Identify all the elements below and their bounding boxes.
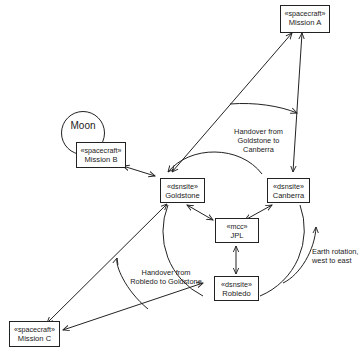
node-stereotype: «dsnsite»	[161, 182, 204, 191]
node-mission-b[interactable]: «spacecraft» Mission B	[76, 142, 126, 168]
node-name: Goldstone	[161, 191, 204, 200]
node-stereotype: «dsnsite»	[215, 280, 258, 289]
node-name: Mission B	[77, 155, 125, 164]
node-mission-c[interactable]: «spacecraft» Mission C	[9, 321, 60, 347]
annotation-earth-rotation: Earth rotation, west to east	[312, 247, 362, 265]
node-canberra[interactable]: «dsnsite» Canberra	[267, 178, 310, 203]
earth-arc-top	[168, 152, 262, 174]
link-goldstone-mission-c	[47, 204, 167, 323]
node-name: Robledo	[215, 289, 258, 298]
node-jpl[interactable]: «mcc» JPL	[215, 218, 259, 243]
node-robledo[interactable]: «dsnsite» Robledo	[214, 276, 259, 301]
node-name: Mission A	[281, 18, 329, 27]
link-canberra-mission-a	[293, 33, 302, 172]
link-jpl-goldstone	[187, 205, 213, 220]
handover-arc-gc	[230, 103, 297, 113]
node-name: JPL	[216, 231, 258, 240]
node-name: Mission C	[10, 334, 59, 343]
earth-circle	[260, 205, 304, 296]
node-stereotype: «spacecraft»	[10, 325, 59, 334]
annotation-handover-goldstone-canberra: Handover from Goldstone to Canberra	[226, 127, 291, 155]
node-stereotype: «dsnsite»	[268, 182, 309, 191]
node-stereotype: «spacecraft»	[77, 146, 125, 155]
link-goldstone-mission-b	[123, 166, 155, 176]
node-stereotype: «spacecraft»	[281, 9, 329, 18]
node-mission-a[interactable]: «spacecraft» Mission A	[280, 5, 330, 33]
annotation-handover-robledo-goldstone: Handover from Robledo to Goldstone	[130, 268, 202, 286]
node-name: Canberra	[268, 191, 309, 200]
moon-label: Moon	[62, 120, 104, 131]
node-goldstone[interactable]: «dsnsite» Goldstone	[160, 178, 205, 203]
link-robledo-mission-c	[63, 283, 203, 330]
node-stereotype: «mcc»	[216, 222, 258, 231]
